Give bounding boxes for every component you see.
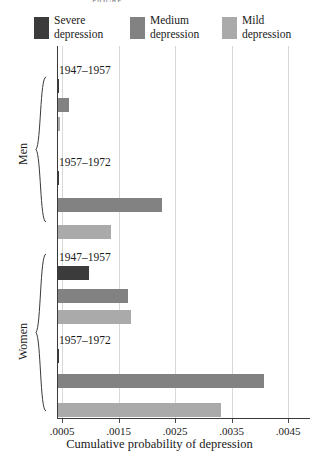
x-axis-tick-label: .0035 bbox=[209, 425, 255, 437]
x-axis-tick-label: .0045 bbox=[265, 425, 311, 437]
cohort-period-label: 1957–1972 bbox=[59, 156, 111, 168]
bar-women-1947-1957-mild bbox=[58, 310, 131, 324]
x-axis-tick bbox=[62, 419, 63, 423]
x-axis-line bbox=[57, 418, 310, 419]
bar-men-1957-1972-medium bbox=[58, 198, 162, 212]
group-bracket-men bbox=[34, 76, 48, 223]
x-axis-tick bbox=[232, 419, 233, 423]
bar-men-1947-1957-medium bbox=[58, 98, 69, 112]
x-axis-tick-label: .0025 bbox=[152, 425, 198, 437]
group-label-men: Men bbox=[16, 143, 31, 165]
legend-label-line2: depression bbox=[54, 28, 103, 42]
x-axis-tick-label: .0005 bbox=[39, 425, 85, 437]
bar-women-1957-1972-medium bbox=[58, 374, 264, 388]
bar-women-1957-1972-mild bbox=[58, 403, 221, 417]
group-label-women: Women bbox=[16, 323, 31, 360]
bar-men-1957-1972-severe bbox=[58, 171, 59, 185]
legend-label: Severedepression bbox=[54, 14, 103, 41]
x-axis-tick bbox=[288, 419, 289, 423]
gridline bbox=[175, 46, 176, 418]
bar-men-1957-1972-mild bbox=[58, 225, 111, 239]
legend-swatch-icon-severe bbox=[34, 17, 49, 39]
gridline bbox=[288, 46, 289, 418]
x-axis-tick bbox=[119, 419, 120, 423]
legend-label-line1: Mild bbox=[242, 14, 291, 28]
bar-women-1957-1972-severe bbox=[58, 349, 59, 363]
group-bracket-women bbox=[34, 253, 48, 412]
legend-label-line2: depression bbox=[150, 28, 199, 42]
gridline bbox=[119, 46, 120, 418]
x-axis-tick bbox=[175, 419, 176, 423]
depression-bar-chart-figure: FIGURE SeveredepressionMediumdepressionM… bbox=[0, 0, 319, 458]
legend-label-line1: Medium bbox=[150, 14, 199, 28]
legend-label: Milddepression bbox=[242, 14, 291, 41]
legend-label-line1: Severe bbox=[54, 14, 103, 28]
x-axis-tick-label: .0015 bbox=[96, 425, 142, 437]
chart-legend: SeveredepressionMediumdepressionMilddepr… bbox=[34, 16, 319, 46]
bar-women-1947-1957-severe bbox=[58, 266, 89, 280]
legend-swatch-icon-medium bbox=[130, 17, 145, 39]
legend-label: Mediumdepression bbox=[150, 14, 199, 41]
cohort-period-label: 1957–1972 bbox=[59, 334, 111, 346]
gridline bbox=[232, 46, 233, 418]
top-caption-remnant: FIGURE bbox=[92, 0, 122, 2]
cohort-period-label: 1947–1957 bbox=[59, 251, 111, 263]
legend-label-line2: depression bbox=[242, 28, 291, 42]
x-axis-title: Cumulative probability of depression bbox=[0, 437, 319, 452]
cohort-period-label: 1947–1957 bbox=[59, 64, 111, 76]
legend-swatch-icon-mild bbox=[222, 17, 237, 39]
bar-men-1947-1957-severe bbox=[58, 79, 59, 93]
plot-area: .0005.0015.0025.0035.00451947–19571957–1… bbox=[57, 46, 310, 419]
bar-men-1947-1957-mild bbox=[58, 117, 60, 131]
bar-women-1947-1957-medium bbox=[58, 289, 128, 303]
